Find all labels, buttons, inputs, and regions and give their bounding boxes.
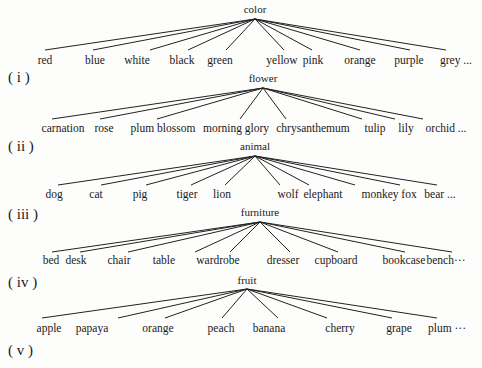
branch-line [100,88,263,119]
leaf-node: morning glory [203,122,269,135]
tree-color: colorredbluewhiteblackgreenyellowpinkora… [38,3,472,67]
branch-line [118,289,247,318]
root-node-color: color [244,3,267,15]
leaf-node: bed [43,254,60,266]
branch-line [255,19,360,50]
branch-line [247,289,327,318]
leaf-node: lily [398,122,414,135]
branch-line [255,156,355,185]
leaf-node: orange [344,54,375,67]
leaf-node: papaya [76,322,109,335]
leaf-node: orchid ... [426,122,467,134]
category-tree-diagram: colorredbluewhiteblackgreenyellowpinkora… [0,0,482,368]
section-number-label: ( iii ) [8,206,38,223]
leaf-node: orange [142,322,173,335]
branch-line [260,222,405,252]
branch-line [42,289,247,318]
leaf-node: tulip [364,122,385,135]
leaf-node: green [207,54,233,67]
branch-line [263,88,423,119]
leaf-node: yellow [266,54,298,67]
leaf-node: dog [45,188,63,201]
branch-line [260,222,338,252]
leaf-node: fox [401,188,417,200]
leaf-node: red [38,54,53,66]
section-number-label: ( i ) [8,69,30,86]
leaf-node: grey ... [440,54,472,67]
branch-line [260,222,290,252]
leaf-node: banana [253,322,286,334]
section-number-label: ( v ) [8,342,33,359]
root-node-furniture: furniture [241,206,280,218]
leaf-node: chair [108,254,131,266]
leaf-node: pink [303,54,324,67]
leaf-node: black [170,54,195,66]
root-node-flower: flower [249,72,278,84]
leaf-node: peach [208,322,235,335]
leaf-node: tiger [176,188,197,201]
leaf-node: dresser [267,254,300,266]
root-node-fruit: fruit [238,274,257,286]
leaf-node: purple [394,54,423,67]
branch-line [52,88,263,119]
branch-line [255,19,410,50]
leaf-node: plum ··· [428,322,466,335]
leaf-node: bench··· [427,254,466,266]
branch-line [157,88,263,119]
leaf-node: white [124,54,150,66]
leaf-node: blue [85,54,105,66]
root-node-animal: animal [240,140,270,152]
tree-animal: animaldogcatpigtigerlionwolfelephantmonk… [45,140,455,201]
leaf-node: elephant [304,188,344,201]
leaf-node: bear ... [424,188,455,200]
leaf-node: carnation [42,122,85,134]
leaf-node: wardrobe [196,254,239,266]
branch-line [247,289,392,318]
branch-line [58,156,255,185]
leaf-node: chrysanthemum [276,122,350,135]
leaf-node: apple [37,322,62,335]
branch-line [128,222,260,252]
leaf-node: grape [386,322,412,335]
leaf-node: desk [65,254,86,266]
branch-line [45,19,255,50]
leaf-node: lion [213,188,231,200]
leaf-node: monkey [361,188,398,201]
branch-line [263,88,362,119]
leaf-node: bookcase [383,254,426,266]
branch-line [240,88,263,119]
branch-line [80,222,260,252]
branch-line [260,222,452,252]
branch-line [52,222,260,252]
leaf-node: rose [94,122,113,134]
tree-furniture: furniturebeddeskchairtablewardrobedresse… [43,206,466,267]
section-number-label: ( ii ) [8,138,34,155]
section-number-label: ( iv ) [8,274,37,291]
branch-line [150,19,255,50]
leaf-node: cat [89,188,103,200]
leaf-node: table [153,254,175,266]
branch-line [101,156,255,185]
leaf-node: cupboard [315,254,358,267]
leaf-node: pig [133,188,148,201]
branch-line [247,289,437,318]
tree-fruit: fruitapplepapayaorangepeachbananacherryg… [37,274,466,335]
leaf-node: plum blossom [131,122,196,135]
leaf-node: cherry [325,322,355,335]
leaf-node: wolf [277,188,298,200]
tree-flower: flowercarnationroseplum blossommorning g… [42,72,467,135]
